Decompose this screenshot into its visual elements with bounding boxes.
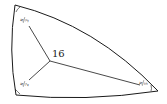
segment-to-right [50,61,140,85]
svg-text:5: 5 [143,82,149,86]
segment-to-top [29,26,50,61]
edge-left [12,5,16,95]
edge-top [15,5,158,91]
edge-bottom [16,91,158,98]
angle-arc-top [16,7,20,12]
svg-text:2: 2 [24,83,30,87]
angle-label-top: π 3 [18,16,30,25]
svg-text:3: 3 [24,19,30,23]
center-label: 16 [52,48,65,59]
angle-arc-right [151,85,152,91]
segment-to-bottom [29,61,50,80]
triangle-diagram: 16 π 3 π 2 π 5 [0,0,167,104]
angle-label-bottom: π 2 [18,80,30,89]
